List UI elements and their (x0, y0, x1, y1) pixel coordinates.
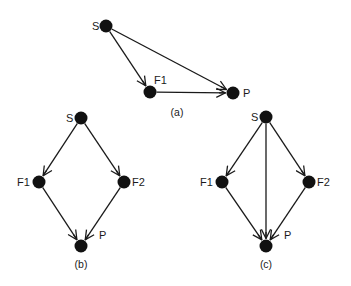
node-label-s: S (66, 112, 73, 124)
node-p (75, 240, 88, 253)
node-f1 (216, 176, 229, 189)
node-label-p: P (284, 229, 291, 241)
node-f2 (303, 176, 316, 189)
edge-f1-to-p (226, 187, 262, 239)
node-s (100, 20, 113, 33)
panel-b: SF1F2P(b) (17, 112, 145, 271)
node-label-f1: F1 (154, 74, 167, 86)
panel-c: SF1F2P(c) (200, 111, 330, 271)
node-label-p: P (243, 87, 250, 99)
node-p (260, 240, 273, 253)
edge-f1-to-p (43, 187, 77, 239)
node-f2 (118, 176, 131, 189)
dag-figure: SF1P(a) SF1F2P(b) SF1F2P(c) (0, 0, 351, 286)
panel-a: SF1P(a) (92, 20, 250, 119)
edge-s-to-f1 (43, 123, 77, 175)
edge-s-to-f2 (270, 122, 305, 175)
edge-s-to-f1 (226, 122, 262, 175)
panel-caption: (a) (171, 106, 184, 118)
edge-f1-to-p (157, 92, 226, 93)
panel-caption: (c) (260, 258, 272, 270)
node-s (75, 112, 88, 125)
node-s (260, 111, 273, 124)
node-label-s: S (92, 20, 99, 32)
node-label-s: S (251, 111, 258, 123)
node-label-f1: F1 (17, 176, 30, 188)
node-label-f1: F1 (200, 176, 213, 188)
node-label-p: P (99, 229, 106, 241)
node-label-f2: F2 (132, 176, 145, 188)
panel-caption: (b) (75, 258, 88, 270)
edge-s-to-f2 (85, 123, 120, 175)
node-p (227, 87, 240, 100)
edge-s-to-f1 (110, 31, 146, 85)
node-f1 (144, 86, 157, 99)
node-f1 (33, 176, 46, 189)
node-label-f2: F2 (317, 176, 330, 188)
